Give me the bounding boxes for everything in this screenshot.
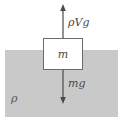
weight-force-label: mg: [68, 78, 85, 89]
buoyancy-diagram: m ρVg mg ρ: [0, 0, 123, 117]
fluid-density-label: ρ: [11, 93, 17, 104]
mass-block: m: [43, 38, 83, 70]
mass-block-label: m: [44, 39, 82, 69]
buoyant-arrow-head: [60, 4, 66, 11]
buoyant-force-label: ρVg: [68, 17, 89, 28]
